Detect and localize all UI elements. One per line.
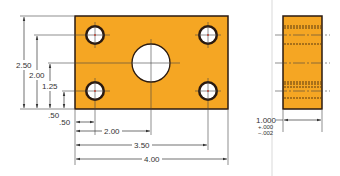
dim-label-lower-hole-offset: .50 bbox=[59, 118, 71, 127]
dim-label-right-hole-offset: 3.50 bbox=[134, 141, 150, 150]
side-outline bbox=[283, 16, 322, 109]
dim-label-center-hole-height: 1.25 bbox=[42, 82, 58, 91]
dim-label-overall-width: 4.00 bbox=[144, 155, 160, 164]
dim-label-overall-height: 2.50 bbox=[16, 61, 32, 70]
hole-top-left bbox=[34, 22, 110, 48]
dim-label-lower-hole-height: .50 bbox=[48, 111, 60, 120]
hole-bottom-right bbox=[195, 78, 221, 150]
tolerance-minus: −.002 bbox=[258, 130, 274, 136]
dim-label-center-hole-offset: 2.00 bbox=[104, 127, 120, 136]
front-view: 2.50 2.00 1.25 .50 .50 2.00 3.50 4.00 bbox=[15, 16, 228, 165]
technical-drawing: 2.50 2.00 1.25 .50 .50 2.00 3.50 4.00 1.… bbox=[0, 0, 340, 176]
side-view: 1.000 +.000 −.002 bbox=[256, 16, 330, 136]
dim-label-upper-hole-height: 2.00 bbox=[29, 71, 45, 80]
